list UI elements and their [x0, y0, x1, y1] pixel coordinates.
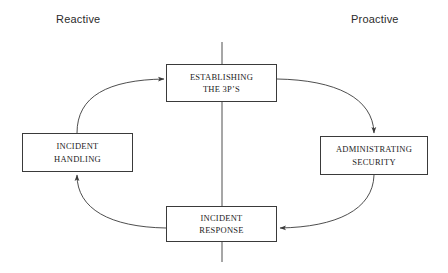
- node-establishing-the-3ps[interactable]: ESTABLISHING THE 3P’S: [166, 64, 277, 102]
- node-administrating-line2: SECURITY: [352, 156, 396, 168]
- node-incident-handling[interactable]: INCIDENT HANDLING: [22, 133, 133, 172]
- node-establishing-line1: ESTABLISHING: [190, 71, 253, 83]
- node-incident-handling-line1: INCIDENT: [56, 140, 98, 152]
- node-incident-handling-line2: HANDLING: [54, 153, 101, 165]
- node-administrating-security[interactable]: ADMINISTRATING SECURITY: [320, 136, 428, 175]
- node-establishing-line2: THE 3P’S: [203, 83, 240, 95]
- node-administrating-line1: ADMINISTRATING: [336, 143, 412, 155]
- node-incident-response-line2: RESPONSE: [199, 224, 244, 236]
- node-incident-response[interactable]: INCIDENT RESPONSE: [166, 206, 277, 242]
- node-incident-response-line1: INCIDENT: [200, 212, 242, 224]
- diagram-canvas: Reactive Proactive ESTABLISHING THE 3P’S…: [0, 0, 448, 273]
